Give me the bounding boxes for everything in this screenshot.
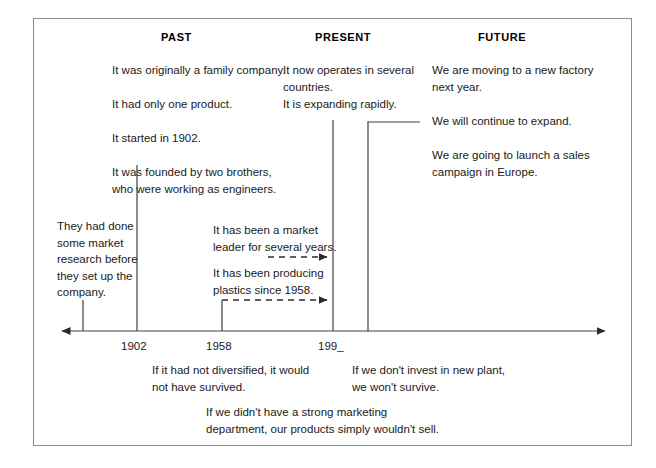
text-block-present-perfect-plastics: It has been producing plastics since 195… bbox=[213, 265, 348, 298]
text-block-present-main: It now operates in several countries. It… bbox=[283, 62, 438, 113]
text-block-conditional-third: If it had not diversified, it would not … bbox=[152, 362, 352, 395]
text-block-present-perfect-market-leader: It has been a market leader for several … bbox=[213, 222, 348, 255]
text-block-past-perfect: They had done some market research befor… bbox=[57, 218, 152, 301]
column-header-future: FUTURE bbox=[478, 31, 526, 43]
axis-tick-label-1902: 1902 bbox=[121, 340, 147, 352]
timeline-diagram-page: PAST PRESENT FUTURE It was originally a … bbox=[0, 0, 656, 468]
text-block-conditional-second: If we didn't have a strong marketing dep… bbox=[206, 404, 516, 437]
column-header-past: PAST bbox=[161, 31, 192, 43]
axis-tick-label-199x: 199_ bbox=[318, 340, 344, 352]
column-header-present: PRESENT bbox=[315, 31, 371, 43]
text-block-conditional-first: If we don't invest in new plant, we won'… bbox=[352, 362, 542, 395]
axis-tick-label-1958: 1958 bbox=[206, 340, 232, 352]
text-block-future-main: We are moving to a new factory next year… bbox=[432, 62, 622, 181]
